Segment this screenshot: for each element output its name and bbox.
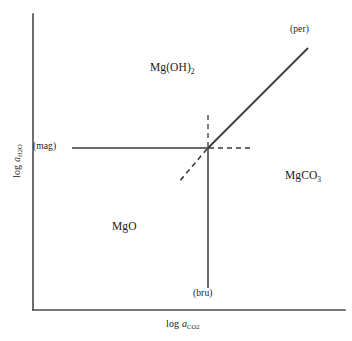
phase-label-magnesite: MgCO3 [285,170,321,182]
x-axis-title-prefix: log [166,318,182,329]
y-axis-title-subscript-tail: O [16,144,23,149]
reaction-label-per: (per) [290,25,309,35]
y-axis-title-subscript-mid: 2 [16,149,23,152]
phase-label-periclase-text: MgO [112,220,137,232]
phase-label-brucite: Mg(OH)2 [150,62,195,74]
reaction-label-mag: (mag) [33,142,56,152]
y-axis-title: log aH2O [12,144,22,178]
y-axis-title-prefix: log [11,162,22,178]
phase-label-magnesite-text: MgCO [285,169,317,181]
phase-label-brucite-text: Mg(OH) [150,61,191,73]
phase-label-periclase: MgO [112,221,137,233]
reaction-label-bru: (bru) [193,289,213,299]
phase-diagram-figure: Mg(OH)2 MgO MgCO3 (per) (mag) (bru) log … [0,0,352,341]
x-axis-title: log aCO2 [166,319,200,329]
phase-label-magnesite-subscript: 3 [317,175,321,184]
x-axis-title-subscript: CO [187,323,196,330]
y-axis-title-symbol: a [11,157,22,162]
x-axis-title-subscript-tail: 2 [196,323,199,330]
y-axis-title-subscript: H [16,152,23,157]
periclase-reaction-line [208,48,308,148]
phase-label-brucite-subscript: 2 [191,67,195,76]
periclase-metastable-extension [178,149,207,183]
